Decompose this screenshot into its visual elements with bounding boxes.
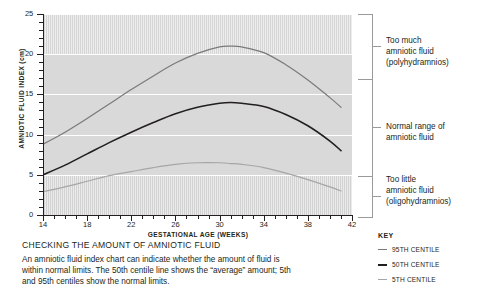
x-tick-label-42: 42 — [340, 221, 364, 229]
x-tick-label-38: 38 — [296, 221, 320, 229]
x-tick-25 — [164, 216, 165, 219]
x-tick-35 — [275, 216, 276, 219]
key-item-label: 5TH CENTILE — [392, 276, 436, 283]
key-item-label: 95TH CENTILE — [392, 246, 440, 253]
x-tick-label-18: 18 — [75, 221, 99, 229]
y-tick-label-25: 25 — [0, 10, 33, 18]
y-tick-16 — [39, 86, 43, 87]
y-tick-13 — [39, 110, 43, 111]
y-axis-line — [43, 14, 44, 216]
annotation-too-much-line-3: (polyhydramnios) — [386, 57, 480, 68]
y-tick-1 — [39, 207, 43, 208]
x-tick-label-14: 14 — [31, 221, 55, 229]
y-axis-label: AMNIOTIC FLUID INDEX (cm) — [18, 24, 25, 174]
annotation-too-little-line-3: (oligohydramnios) — [386, 196, 480, 207]
x-axis-label: GESTATIONAL AGE (WEEKS) — [43, 231, 353, 238]
bracket-tick-oligohydramnios — [372, 196, 381, 197]
y-tick-12 — [39, 119, 43, 120]
x-tick-32 — [242, 216, 243, 219]
x-tick-24 — [153, 216, 154, 219]
y-tick-11 — [39, 127, 43, 128]
y-tick-14 — [39, 102, 43, 103]
y-tick-label-20: 20 — [0, 50, 33, 58]
bracket-normal — [358, 79, 373, 177]
annotation-too-little-line-1: Too little — [386, 174, 480, 185]
y-tick-4 — [39, 183, 43, 184]
x-tick-label-22: 22 — [119, 221, 143, 229]
x-tick-label-26: 26 — [163, 221, 187, 229]
x-tick-41 — [341, 216, 342, 219]
key-item-5th-centile: 5TH CENTILE — [378, 276, 480, 283]
annotation-too-much-line-2: amniotic fluid — [386, 46, 480, 57]
key-line-swatch-icon — [378, 279, 387, 280]
x-tick-19 — [98, 216, 99, 219]
annotation-normal: Normal range of amniotic fluid — [386, 121, 480, 143]
y-tick-3 — [39, 191, 43, 192]
x-tick-15 — [54, 216, 55, 219]
bracket-tick-polyhydramnios — [372, 46, 381, 47]
bracket-polyhydramnios — [358, 14, 373, 80]
key-item-95th-centile: 95TH CENTILE — [378, 246, 480, 253]
key-title: KEY — [378, 232, 480, 239]
x-tick-40 — [330, 216, 331, 219]
bracket-tick-normal — [372, 127, 381, 128]
y-tick-label-0: 0 — [0, 211, 33, 219]
x-tick-17 — [76, 216, 77, 219]
y-tick-label-10: 10 — [0, 131, 33, 139]
y-tick-label-15: 15 — [0, 90, 33, 98]
annotation-too-much: Too much amniotic fluid (polyhydramnios) — [386, 35, 480, 68]
y-tick-22 — [39, 38, 43, 39]
y-tick-25 — [37, 14, 43, 15]
curve-50th-centile — [43, 102, 341, 174]
chart-area: 0510152025 1418222630343842 AMNIOTIC FLU… — [0, 0, 360, 232]
centile-curves — [43, 14, 352, 215]
x-tick-label-34: 34 — [252, 221, 276, 229]
y-tick-21 — [39, 46, 43, 47]
annotation-too-little-line-2: amniotic fluid — [386, 185, 480, 196]
curve-95th-centile — [43, 46, 341, 144]
annotation-too-much-line-1: Too much — [386, 35, 480, 46]
x-tick-31 — [231, 216, 232, 219]
y-tick-5 — [37, 175, 43, 176]
caption-body: An amniotic fluid index chart can indica… — [22, 254, 292, 288]
annotation-normal-line-1: Normal range of — [386, 121, 480, 132]
x-tick-23 — [142, 216, 143, 219]
y-tick-6 — [39, 167, 43, 168]
y-tick-label-5: 5 — [0, 171, 33, 179]
x-tick-16 — [65, 216, 66, 219]
x-tick-27 — [186, 216, 187, 219]
y-tick-10 — [37, 135, 43, 136]
caption-title: CHECKING THE AMOUNT OF AMNIOTIC FLUID — [22, 240, 292, 250]
x-tick-29 — [209, 216, 210, 219]
y-tick-8 — [39, 151, 43, 152]
key-line-swatch-icon — [378, 249, 387, 250]
y-tick-20 — [37, 54, 43, 55]
key-item-label: 50TH CENTILE — [392, 261, 440, 268]
y-tick-2 — [39, 199, 43, 200]
x-tick-label-30: 30 — [208, 221, 232, 229]
curve-5th-centile — [43, 163, 341, 192]
y-tick-18 — [39, 70, 43, 71]
caption: CHECKING THE AMOUNT OF AMNIOTIC FLUID An… — [22, 240, 292, 288]
key-item-50th-centile: 50TH CENTILE — [378, 261, 480, 268]
annotation-normal-line-2: amniotic fluid — [386, 132, 480, 143]
key-line-swatch-icon — [378, 264, 387, 266]
x-tick-39 — [319, 216, 320, 219]
x-tick-36 — [286, 216, 287, 219]
y-tick-9 — [39, 143, 43, 144]
y-tick-23 — [39, 30, 43, 31]
y-tick-17 — [39, 78, 43, 79]
amniotic-fluid-index-figure: 0510152025 1418222630343842 AMNIOTIC FLU… — [0, 0, 480, 296]
y-tick-15 — [37, 94, 43, 95]
y-tick-7 — [39, 159, 43, 160]
x-tick-21 — [120, 216, 121, 219]
chart-key: KEY 95TH CENTILE50TH CENTILE5TH CENTILE — [378, 232, 480, 291]
annotation-too-little: Too little amniotic fluid (oligohydramni… — [386, 174, 480, 207]
key-rows: 95TH CENTILE50TH CENTILE5TH CENTILE — [378, 246, 480, 283]
x-tick-37 — [297, 216, 298, 219]
x-tick-28 — [198, 216, 199, 219]
x-tick-20 — [109, 216, 110, 219]
y-tick-24 — [39, 22, 43, 23]
plot-area — [43, 14, 352, 215]
x-tick-33 — [253, 216, 254, 219]
